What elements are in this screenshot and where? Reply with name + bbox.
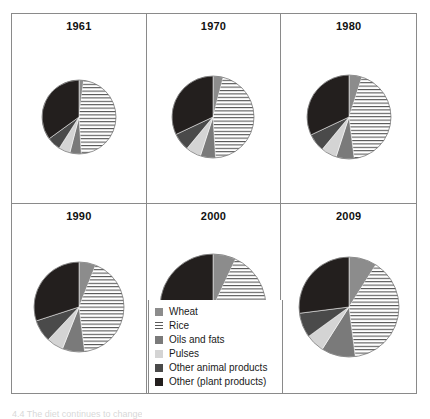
legend-item-other-animal-products: Other animal products [155, 361, 282, 375]
panel-1990: 1990 [12, 204, 147, 394]
pie-chart-1990 [12, 222, 146, 394]
rice-swatch [155, 322, 163, 330]
pie-chart-1980 [281, 32, 416, 203]
legend-item-pulses: Pulses [155, 347, 282, 361]
panel-year-title: 1961 [66, 21, 91, 32]
pulses-swatch [155, 350, 163, 358]
other-plant-products-swatch [155, 378, 163, 386]
legend-item-oils-and-fats: Oils and fats [155, 333, 282, 347]
panel-year-title: 2000 [201, 211, 226, 222]
panel-year-title: 1970 [201, 21, 226, 32]
panel-1970: 1970 [147, 14, 282, 204]
panel-1961: 1961 [12, 14, 147, 204]
legend-label: Wheat [169, 306, 198, 318]
panel-2009: 2009 [281, 204, 416, 394]
legend-item-wheat: Wheat [155, 305, 282, 319]
legend-label: Pulses [169, 348, 199, 360]
other-animal-products-swatch [155, 364, 163, 372]
panel-1980: 1980 [281, 14, 416, 204]
pie-chart-1970 [147, 32, 281, 203]
chart-legend: Wheat Rice Oils and fats Pulses Other an… [148, 300, 283, 394]
legend-label: Other animal products [169, 362, 267, 374]
oils-and-fats-swatch [155, 336, 163, 344]
legend-item-rice: Rice [155, 319, 282, 333]
pie-slice-other-plant-products [299, 257, 349, 313]
legend-item-other-plant-products: Other (plant products) [155, 375, 282, 389]
legend-label: Oils and fats [169, 334, 225, 346]
pie-chart-2009 [281, 222, 416, 394]
pie-chart-1961 [12, 32, 146, 203]
panel-year-title: 1980 [336, 21, 361, 32]
legend-label: Rice [169, 320, 189, 332]
panel-year-title: 1990 [66, 211, 91, 222]
pie-slice-rice [79, 81, 116, 155]
legend-label: Other (plant products) [169, 376, 266, 388]
figure-caption: 4.4 The diet continues to change [12, 409, 142, 419]
wheat-swatch [155, 308, 163, 316]
panel-year-title: 2009 [336, 211, 361, 222]
